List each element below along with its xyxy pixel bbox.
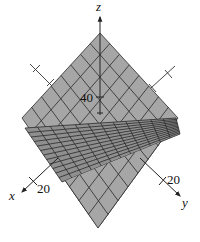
z-tick-label: 40 (80, 90, 93, 105)
3d-plot: z 40 20 x 20 y (0, 0, 200, 242)
y-tick-label: 20 (167, 172, 180, 187)
x-tick-label: 20 (37, 181, 50, 196)
y-axis: 20 y (140, 158, 188, 210)
x-axis-label: x (8, 188, 15, 203)
y-axis-tick (159, 177, 166, 185)
y-axis-label: y (180, 195, 188, 210)
z-axis-label: z (95, 0, 101, 14)
x-axis: 20 x (8, 158, 58, 203)
